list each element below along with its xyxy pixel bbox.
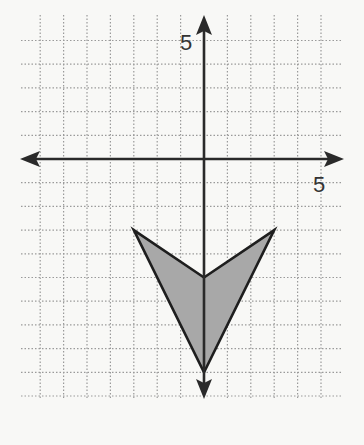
coordinate-plane: 5 5 — [0, 0, 364, 445]
y-axis-tick-label-5: 5 — [180, 30, 192, 55]
grid — [21, 15, 343, 398]
axes — [20, 15, 344, 399]
x-axis-tick-label-5: 5 — [313, 172, 325, 197]
